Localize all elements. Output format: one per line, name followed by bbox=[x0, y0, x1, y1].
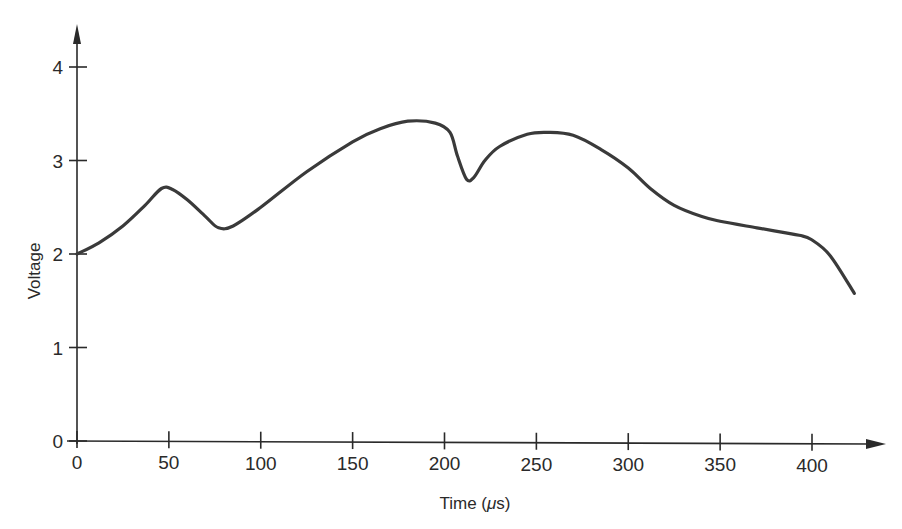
x-tick-label: 200 bbox=[429, 453, 461, 474]
x-axis-arrow-icon bbox=[866, 439, 886, 449]
data-series bbox=[77, 121, 854, 293]
x-tick-label: 150 bbox=[337, 453, 369, 474]
x-axis: 050100150200250300350400 bbox=[67, 431, 886, 476]
y-tick-label: 4 bbox=[52, 57, 63, 78]
y-tick-label: 1 bbox=[52, 338, 63, 359]
y-axis: 01234 bbox=[52, 24, 87, 452]
x-tick-label: 350 bbox=[704, 454, 736, 475]
x-tick-label: 0 bbox=[72, 452, 83, 473]
y-tick-label: 3 bbox=[52, 151, 63, 172]
x-tick-label: 250 bbox=[521, 454, 553, 475]
y-axis-label: Voltage bbox=[25, 243, 44, 300]
x-tick-label: 50 bbox=[158, 452, 179, 473]
x-tick-label: 300 bbox=[612, 454, 644, 475]
y-axis-arrow-icon bbox=[73, 24, 81, 44]
voltage-curve bbox=[77, 121, 854, 293]
x-tick-label: 400 bbox=[796, 455, 828, 476]
x-axis-label: Time (μs) bbox=[439, 494, 510, 513]
y-tick-label: 2 bbox=[52, 244, 63, 265]
x-axis-line bbox=[67, 441, 872, 444]
x-tick-label: 100 bbox=[245, 453, 277, 474]
y-tick-label: 0 bbox=[52, 431, 63, 452]
voltage-time-chart: 01234 050100150200250300350400 Voltage T… bbox=[0, 0, 902, 529]
